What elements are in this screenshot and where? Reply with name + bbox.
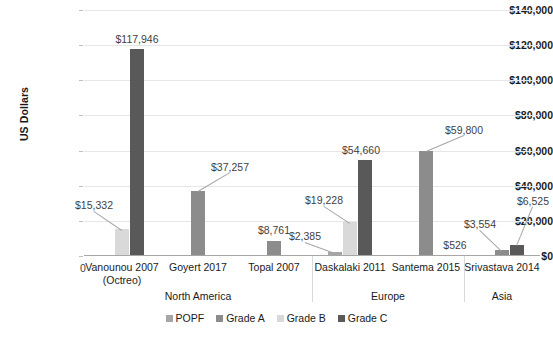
y-axis-tick-mark [79, 45, 83, 46]
group-label: Europe [312, 290, 464, 302]
bar [191, 191, 205, 256]
category-label-line: (Octreo) [76, 274, 168, 287]
label-leader-line [305, 242, 335, 254]
label-leader-line [479, 230, 502, 252]
bar [115, 229, 129, 256]
y-axis-tick-mark [79, 151, 83, 152]
data-label: $19,228 [305, 194, 343, 206]
group-separator [464, 256, 465, 302]
label-leader-line [516, 206, 533, 245]
legend-swatch-icon [216, 315, 223, 322]
plot-area: 0$15,332$117,946$37,257$8,761$2,385$19,2… [84, 10, 540, 256]
legend-item[interactable]: Grade C [338, 312, 388, 324]
data-label: $15,332 [75, 199, 113, 211]
legend-label: Grade B [287, 312, 326, 324]
group-label: North America [84, 290, 312, 302]
bar [267, 241, 281, 256]
group-label: Asia [464, 290, 540, 302]
label-leader-line [426, 135, 464, 152]
legend-item[interactable]: Grade A [216, 312, 265, 324]
data-label: $6,525 [517, 195, 549, 207]
y-axis-tick-mark [79, 10, 83, 11]
legend-label: Grade A [226, 312, 265, 324]
gridline [84, 80, 540, 81]
data-label: $54,660 [342, 144, 380, 156]
gridline [84, 151, 540, 152]
label-leader-line [198, 172, 230, 192]
bar-chart: US Dollars $0$20,000$40,000$60,000$80,00… [0, 0, 553, 337]
data-label: $59,800 [445, 124, 483, 136]
category-label: Srivastava 2014 [456, 261, 548, 274]
legend-swatch-icon [338, 315, 345, 322]
data-label: $117,946 [115, 33, 158, 45]
data-label: $8,761 [258, 224, 290, 236]
gridline [84, 115, 540, 116]
chart-legend: POPFGrade AGrade BGrade C [0, 312, 553, 324]
gridline [84, 186, 540, 187]
group-separator [312, 256, 313, 302]
data-label: $37,257 [211, 161, 249, 173]
gridline [84, 45, 540, 46]
data-label: $2,385 [289, 230, 321, 242]
data-label: $3,554 [464, 218, 496, 230]
legend-label: Grade C [348, 312, 388, 324]
legend-item[interactable]: POPF [166, 312, 205, 324]
bar [419, 151, 433, 256]
bar [130, 49, 144, 256]
y-axis-tick-mark [79, 80, 83, 81]
bar [358, 160, 372, 256]
gridline [84, 10, 540, 11]
legend-swatch-icon [166, 315, 173, 322]
y-axis-title: US Dollars [18, 54, 30, 174]
y-axis-tick-mark [79, 186, 83, 187]
legend-item[interactable]: Grade B [277, 312, 326, 324]
y-axis-tick-mark [79, 256, 83, 257]
legend-label: POPF [176, 312, 205, 324]
y-axis-tick-mark [79, 221, 83, 222]
bar [343, 222, 357, 256]
category-label-line: Srivastava 2014 [456, 261, 548, 274]
y-axis-tick-mark [79, 115, 83, 116]
legend-swatch-icon [277, 315, 284, 322]
data-label: $526 [443, 239, 466, 251]
